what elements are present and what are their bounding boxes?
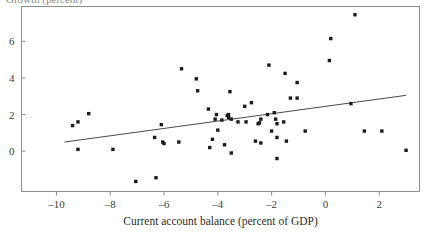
data-point — [259, 141, 262, 144]
data-point — [329, 37, 332, 40]
data-point — [154, 176, 157, 179]
y-tick-label: 0 — [9, 145, 15, 157]
data-point — [258, 121, 261, 124]
data-point — [282, 120, 285, 123]
data-point — [223, 143, 226, 146]
data-point — [353, 13, 356, 16]
x-tick-label: –2 — [265, 198, 277, 210]
data-point — [71, 124, 74, 127]
data-point — [270, 129, 273, 132]
data-point — [215, 113, 218, 116]
data-point — [275, 122, 278, 125]
data-point — [216, 128, 219, 131]
data-point — [230, 151, 233, 154]
y-tick-label: 6 — [9, 35, 15, 47]
data-point — [87, 112, 90, 115]
axis-ticks — [22, 41, 380, 195]
axis-tick-labels: –10–8–6–4–2020246 — [9, 35, 382, 209]
data-point — [404, 149, 407, 152]
data-point — [380, 129, 383, 132]
x-tick-label: 0 — [323, 198, 329, 210]
data-point — [76, 120, 79, 123]
data-point — [153, 136, 156, 139]
x-tick-label: 2 — [376, 198, 382, 210]
data-point — [267, 63, 270, 66]
data-points — [71, 13, 408, 183]
plot-canvas: –10–8–6–4–2020246 Current account balanc… — [0, 0, 428, 233]
trend-line — [65, 95, 407, 142]
x-tick-label: –8 — [104, 198, 117, 210]
x-tick-label: –10 — [47, 198, 65, 210]
data-point — [177, 140, 180, 143]
data-point — [76, 148, 79, 151]
data-point — [208, 146, 211, 149]
data-point — [274, 117, 277, 120]
data-point — [227, 113, 230, 116]
y-tick-label: 2 — [9, 109, 15, 121]
data-point — [207, 107, 210, 110]
data-point — [230, 117, 233, 120]
data-point — [254, 139, 257, 142]
data-point — [363, 129, 366, 132]
regression-line — [65, 95, 407, 142]
x-axis-title: Current account balance (percent of GDP) — [123, 215, 318, 228]
data-point — [295, 96, 298, 99]
data-point — [304, 129, 307, 132]
x-tick-label: –6 — [158, 198, 171, 210]
scatter-plot-figure: Growth (percent) –10–8–6–4–2020246 Curre… — [0, 0, 428, 233]
data-point — [285, 139, 288, 142]
data-point — [228, 90, 231, 93]
data-point — [328, 59, 331, 62]
data-point — [259, 117, 262, 120]
data-point — [195, 77, 198, 80]
data-point — [289, 96, 292, 99]
data-point — [295, 81, 298, 84]
x-axis-title-label: Current account balance (percent of GDP) — [123, 215, 318, 228]
data-point — [160, 123, 163, 126]
data-point — [211, 138, 214, 141]
data-point — [196, 89, 199, 92]
data-point — [250, 101, 253, 104]
data-point — [213, 117, 216, 120]
data-point — [111, 148, 114, 151]
data-point — [180, 67, 183, 70]
data-point — [220, 118, 223, 121]
data-point — [266, 113, 269, 116]
data-point — [349, 102, 352, 105]
data-point — [244, 120, 247, 123]
data-point — [275, 157, 278, 160]
y-tick-label: 4 — [9, 72, 15, 84]
data-point — [273, 111, 276, 114]
plot-border — [22, 7, 420, 192]
data-point — [162, 142, 165, 145]
x-tick-label: –4 — [211, 198, 224, 210]
data-point — [134, 180, 137, 183]
data-point — [283, 72, 286, 75]
data-point — [236, 120, 239, 123]
data-point — [243, 105, 246, 108]
data-point — [275, 136, 278, 139]
plot-frame — [22, 7, 420, 192]
